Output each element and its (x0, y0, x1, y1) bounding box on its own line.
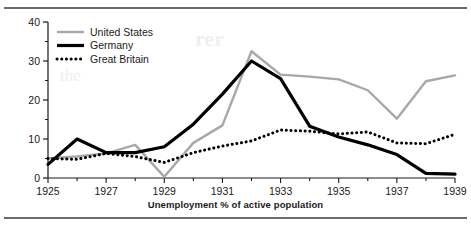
svg-text:40: 40 (28, 16, 40, 28)
svg-text:20: 20 (28, 94, 40, 106)
chart-caption: Unemployment % of active population (0, 199, 471, 210)
svg-text:30: 30 (28, 55, 40, 67)
svg-text:1937: 1937 (385, 185, 409, 197)
svg-text:Great Britain: Great Britain (90, 53, 149, 65)
svg-text:0: 0 (34, 172, 40, 184)
svg-text:1931: 1931 (211, 185, 235, 197)
svg-text:Germany: Germany (90, 39, 134, 51)
svg-text:1927: 1927 (94, 185, 118, 197)
chart-legend: United StatesGermanyGreat Britain (57, 26, 153, 65)
x-axis-ticks: 19251927192919311933193519371939 (36, 178, 467, 197)
y-axis-ticks: 010203040 (28, 16, 48, 184)
svg-text:1929: 1929 (153, 185, 177, 197)
line-chart: 010203040 192519271929193119331935193719… (0, 0, 471, 226)
svg-text:1939: 1939 (443, 185, 467, 197)
svg-text:1933: 1933 (269, 185, 293, 197)
svg-text:1925: 1925 (36, 185, 60, 197)
svg-text:1935: 1935 (327, 185, 351, 197)
figure-container: rer the of 010203040 1925192719291931193… (0, 0, 471, 226)
svg-text:10: 10 (28, 133, 40, 145)
svg-text:United States: United States (90, 26, 153, 38)
data-series (48, 51, 455, 177)
